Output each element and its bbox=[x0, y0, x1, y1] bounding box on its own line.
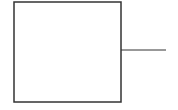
diagram-canvas bbox=[0, 0, 178, 110]
block-box bbox=[14, 2, 121, 102]
